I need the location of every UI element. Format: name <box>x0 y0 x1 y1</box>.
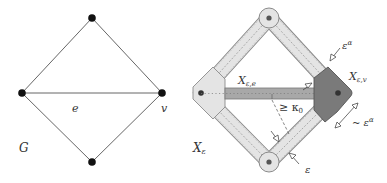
graph-g: e v G <box>18 14 168 166</box>
vertex-right-piece <box>314 67 352 122</box>
diagram-canvas: e v G <box>0 0 387 183</box>
edge-top-right <box>92 18 162 93</box>
graph-label-g: G <box>19 141 29 155</box>
eps-alpha-right-label: ~ εα <box>352 116 374 128</box>
vertex-top-dot <box>266 15 271 20</box>
arrow-lower-left-head <box>273 135 279 142</box>
vertex-right-dot <box>335 90 341 96</box>
edge-top-left <box>22 18 92 93</box>
vertex-left-piece <box>193 67 225 119</box>
eps-bottom-label: ε <box>305 164 310 175</box>
edge-right-bottom <box>92 93 162 162</box>
edge-left-bottom <box>22 93 92 162</box>
arrow-eps-alpha-head <box>330 54 336 61</box>
vertex-piece-label: Xε,v <box>348 70 367 84</box>
node-bottom <box>88 158 96 166</box>
angle-label: ≥ κ0 <box>279 101 303 115</box>
arrow-edge-head <box>305 83 312 88</box>
edge-label-e: e <box>72 102 79 115</box>
edge-piece-label: Xε,e <box>237 74 256 88</box>
vertex-bottom-dot <box>266 159 271 164</box>
vertex-left-dot <box>198 90 204 96</box>
arrow-eps-head <box>289 153 296 159</box>
space-label: Xε <box>192 141 206 156</box>
eps-alpha-top-label: εα <box>342 39 352 51</box>
thickened-space: Xε,e Xε,v ≥ κ0 εα ~ εα ε Xε <box>192 8 374 175</box>
node-left <box>18 89 26 97</box>
vertex-label-v: v <box>161 102 168 115</box>
node-v <box>158 89 166 97</box>
node-top <box>88 14 96 22</box>
